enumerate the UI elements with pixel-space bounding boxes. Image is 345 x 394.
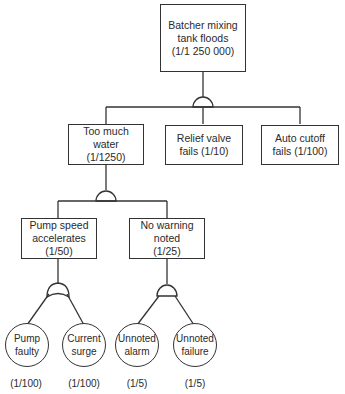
event-label: failure	[181, 345, 208, 358]
or-gate-icon	[47, 283, 69, 297]
event-probability: (1/50)	[45, 245, 72, 258]
event-label: Unnoted	[176, 332, 214, 345]
basic-event-probability: (1/5)	[112, 378, 162, 389]
event-label: water	[93, 138, 119, 151]
event-label: Unnoted	[118, 332, 156, 345]
basic-event-probability: (1/5)	[170, 378, 220, 389]
event-label: Auto cutoff	[275, 132, 325, 145]
event-label: Too much	[83, 125, 129, 138]
event-label: Pump speed	[30, 219, 89, 232]
top-event-probability: (1/1 250 000)	[172, 45, 234, 58]
event-label: surge	[71, 345, 96, 358]
event-label: noted	[154, 232, 180, 245]
event-probability: (1/25)	[153, 245, 180, 258]
event-label: faulty	[15, 345, 39, 358]
basic-event-current-surge: Current surge	[62, 323, 106, 367]
event-label: Relief valve	[177, 132, 231, 145]
event-label: Pump	[14, 332, 40, 345]
event-label: Current	[67, 332, 100, 345]
top-event-line2: tank floods	[178, 32, 229, 45]
pump-speed-accelerates-box: Pump speed accelerates (1/50)	[21, 218, 97, 259]
and-gate-icon	[193, 97, 213, 107]
basic-event-unnoted-failure: Unnoted failure	[173, 323, 217, 367]
relief-valve-fails-box: Relief valve fails (1/10)	[165, 125, 243, 165]
basic-event-probability: (1/100)	[1, 378, 51, 389]
auto-cutoff-fails-box: Auto cutoff fails (1/100)	[261, 125, 339, 165]
event-label: fails (1/10)	[179, 145, 228, 158]
event-label: alarm	[124, 345, 149, 358]
basic-event-probability: (1/100)	[59, 378, 109, 389]
too-much-water-box: Too much water (1/1250)	[68, 124, 144, 165]
and-gate-icon	[96, 191, 116, 201]
event-probability: (1/1250)	[86, 151, 125, 164]
top-event-line1: Batcher mixing	[168, 19, 237, 32]
basic-event-pump-faulty: Pump faulty	[5, 323, 49, 367]
basic-event-unnoted-alarm: Unnoted alarm	[115, 323, 159, 367]
and-gate-icon	[157, 285, 177, 296]
event-label: fails (1/100)	[273, 145, 328, 158]
event-label: accelerates	[32, 232, 86, 245]
event-label: No warning	[140, 219, 193, 232]
no-warning-noted-box: No warning noted (1/25)	[129, 218, 205, 259]
top-event-box: Batcher mixing tank floods (1/1 250 000)	[160, 4, 246, 72]
